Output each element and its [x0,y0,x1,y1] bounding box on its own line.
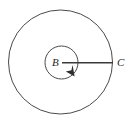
direction-arrowhead-icon [66,65,75,77]
concentric-circles-diagram: B C [0,0,134,129]
inner-region-label: B [52,56,59,68]
outer-circle [9,10,113,114]
outer-point-label: C [117,56,125,68]
diagram-container: B C [0,0,134,129]
